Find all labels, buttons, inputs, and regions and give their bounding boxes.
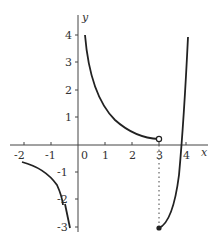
x-tick-label: 2 (129, 149, 136, 162)
x-tick-label: 0 (81, 149, 88, 162)
x-tick-label: 4 (183, 149, 190, 162)
y-tick-label: 1 (65, 111, 72, 124)
y-tick-label: 3 (65, 56, 72, 69)
function-graph: x y -2 -1 0 1 2 3 4 4 3 2 1 -1 -2 -3 (0, 0, 221, 249)
middle-branch-curve (85, 35, 159, 139)
open-endpoint-marker (156, 136, 161, 141)
x-tick-label: 1 (102, 149, 109, 162)
x-tick-label: -2 (14, 149, 25, 162)
x-tick-label: -1 (45, 149, 56, 162)
closed-endpoint-marker (156, 225, 161, 230)
x-axis-label: x (201, 146, 208, 159)
y-tick-label: 4 (65, 29, 72, 42)
y-tick-label: -3 (57, 221, 68, 234)
y-tick-label: -1 (57, 166, 68, 179)
right-branch-curve (159, 37, 188, 228)
y-tick-label: 2 (65, 84, 72, 97)
y-axis-label: y (81, 11, 89, 24)
